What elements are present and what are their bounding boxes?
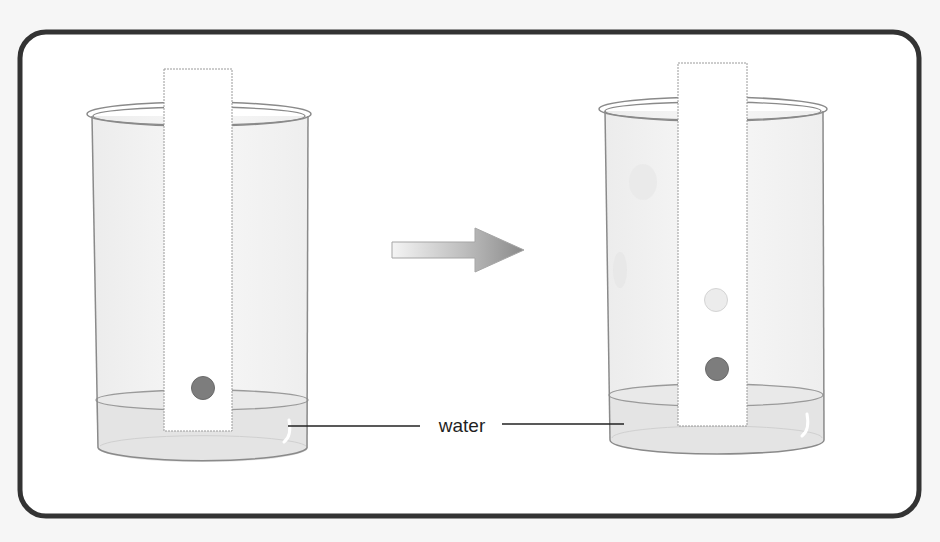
beaker-after (599, 63, 827, 454)
paper-strip-before (164, 69, 232, 431)
water-label: water (438, 415, 486, 436)
ink-spot-dark (706, 358, 729, 381)
diagram-canvas: water (0, 0, 940, 542)
beaker-before (87, 69, 311, 462)
ink-spot-dark (192, 377, 215, 400)
ink-spot-light (705, 289, 728, 312)
